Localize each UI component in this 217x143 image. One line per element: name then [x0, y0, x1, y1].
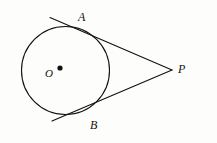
label-point-a: A	[78, 11, 85, 23]
label-point-b: B	[90, 119, 97, 131]
tangent-line-lower-bp	[52, 70, 172, 121]
circle-o	[22, 27, 110, 115]
label-point-o: O	[45, 68, 53, 79]
center-point-dot	[57, 65, 62, 70]
label-point-p: P	[178, 63, 185, 75]
geometry-figure: A O P B	[0, 0, 217, 143]
tangent-line-upper-ap	[50, 18, 172, 71]
